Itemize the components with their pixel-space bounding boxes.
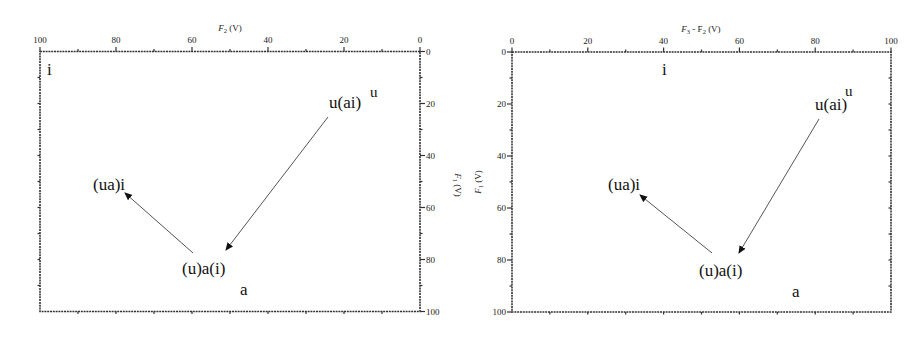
left-y-axis-title: F1 (V) [452, 172, 463, 197]
right-label-uai: u(ai) [815, 95, 847, 114]
right-y-tick-20: 20 [497, 99, 507, 109]
right-label-u-a-i: (u)a(i) [699, 261, 742, 280]
right-label-ua-i: (ua)i [608, 175, 640, 194]
right-x-tick-80: 80 [811, 36, 821, 46]
left-label-a: a [240, 280, 248, 299]
left-y-tick-40: 40 [426, 151, 436, 161]
left-label-i: i [47, 60, 52, 79]
left-y-tick-80: 80 [426, 255, 436, 265]
left-y-tick-20: 20 [426, 99, 436, 109]
left-y-tick-labels: 0 20 40 60 80 100 [426, 47, 440, 317]
left-label-u: u [370, 84, 378, 100]
right-y-axis-title: F1 (V) [473, 170, 484, 195]
left-x-tick-100: 100 [33, 35, 47, 45]
left-y-tick-0: 0 [426, 47, 431, 57]
right-y-tick-80: 80 [497, 255, 507, 265]
left-x-tick-80: 80 [112, 35, 122, 45]
right-x-tick-40: 40 [659, 36, 669, 46]
left-arrow-uaix-to-uai2 [125, 193, 193, 253]
left-x-tick-60: 60 [188, 35, 198, 45]
left-label-u-a-i: (u)a(i) [182, 259, 225, 278]
right-x-axis-title: F3 - F2 (V) [680, 24, 720, 35]
figure-canvas: 100 80 60 40 20 0 F2 (V) [0, 0, 921, 339]
right-x-tick-labels: 0 20 40 60 80 100 [510, 36, 899, 46]
left-x-axis-title: F2 (V) [217, 23, 242, 34]
left-label-uai: u(ai) [329, 93, 361, 112]
right-label-u: u [845, 83, 853, 99]
right-x-tick-60: 60 [735, 36, 745, 46]
right-y-tick-100: 100 [493, 307, 507, 317]
right-y-tick-40: 40 [497, 151, 507, 161]
right-x-tick-0: 0 [510, 36, 515, 46]
right-plot: 0 20 40 60 80 100 F3 - F2 (V) [473, 24, 898, 317]
left-x-tick-0: 0 [418, 35, 423, 45]
left-label-ua-i: (ua)i [93, 175, 125, 194]
left-x-tick-20: 20 [340, 35, 350, 45]
left-x-tick-labels: 100 80 60 40 20 0 [33, 35, 423, 45]
right-y-tick-labels: 0 20 40 60 80 100 [493, 47, 507, 317]
left-x-tick-40: 40 [264, 35, 274, 45]
left-y-tick-100: 100 [426, 307, 440, 317]
left-y-tick-60: 60 [426, 203, 436, 213]
right-label-a: a [792, 282, 800, 301]
right-x-tick-100: 100 [884, 36, 898, 46]
right-arrow-uaix-to-uai2 [640, 195, 712, 253]
right-y-tick-0: 0 [502, 47, 507, 57]
right-label-i: i [662, 60, 667, 79]
right-x-tick-20: 20 [583, 36, 593, 46]
right-y-tick-60: 60 [497, 203, 507, 213]
left-arrow-uai-to-uaix [226, 117, 328, 250]
right-arrow-uai-to-uaix [739, 119, 819, 253]
left-plot: 100 80 60 40 20 0 F2 (V) [33, 23, 463, 317]
